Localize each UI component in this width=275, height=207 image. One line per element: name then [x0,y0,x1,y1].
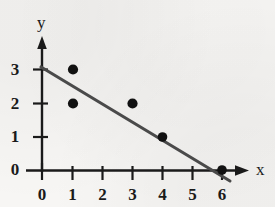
y-tick-label-3: 3 [6,61,24,78]
y-tick-label-2: 2 [6,95,24,112]
data-point [68,64,78,74]
x-tick-label-6: 6 [213,186,231,203]
x-axis-label: x [256,161,265,178]
x-tick-label-2: 2 [94,186,112,203]
data-point [217,165,227,175]
data-point-markers [68,64,227,174]
y-tick-label-1: 1 [6,128,24,145]
x-tick-label-0: 0 [33,186,51,203]
x-tick-label-4: 4 [154,186,172,203]
data-point [158,132,168,142]
data-point [127,98,137,108]
scatter-plot-figure: 3 2 1 0 0 1 2 3 4 5 6 y x [0,0,275,207]
trend-line [41,67,230,181]
y-axis-label: y [37,14,46,31]
y-tick-label-0: 0 [6,161,24,178]
x-tick-label-5: 5 [184,186,202,203]
y-axis-ticks [33,70,48,138]
data-point [68,98,78,108]
x-tick-label-3: 3 [124,186,142,203]
x-tick-label-1: 1 [64,186,82,203]
